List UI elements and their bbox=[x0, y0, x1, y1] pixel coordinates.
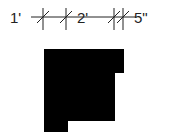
dimension-label-1ft: 1' bbox=[10, 10, 21, 25]
floor-plan-shape bbox=[44, 49, 124, 132]
dimension-label-5in: 5" bbox=[134, 10, 148, 25]
dimension-label-2ft: 2' bbox=[77, 10, 88, 25]
